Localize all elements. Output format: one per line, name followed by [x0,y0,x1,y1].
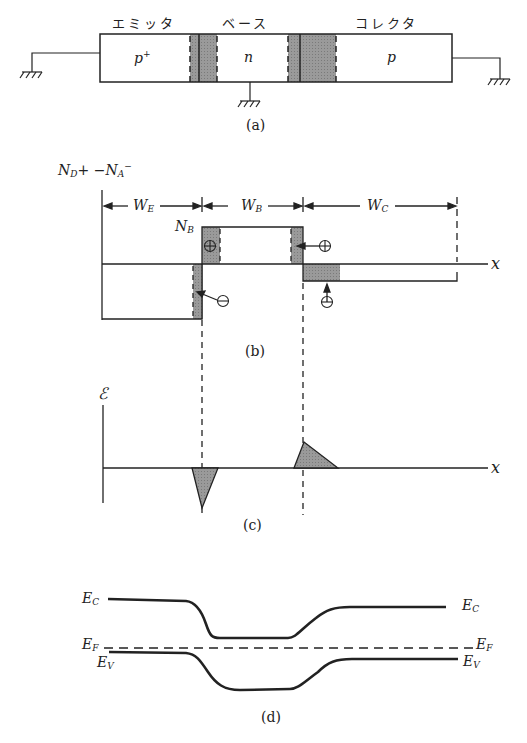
wb-main: W [241,197,255,213]
width-emitter-label: WE [133,197,154,214]
emitter-doping-sup: + [143,49,151,59]
nb-sub: B [187,225,194,235]
ylabel-main: N [58,162,70,178]
ef-left-sub: F [92,643,98,653]
ec-right-main: E [462,597,472,613]
width-collector-label: WC [367,197,388,214]
ec-label-left: EC [82,590,99,607]
caption-d: (d) [261,709,281,725]
wc-main: W [367,197,381,213]
emitter-doping: p+ [134,49,151,66]
caption-a: (a) [246,117,265,133]
ev-label-left: EV [97,654,114,671]
band-diagram [104,599,474,690]
wc-sub: C [381,204,388,214]
collector-label: コレクタ [355,13,418,32]
nb-label: NB [175,218,194,235]
diagram-canvas [0,0,527,743]
ev-label-right: EV [463,653,480,670]
ec-label-right: EC [462,597,479,614]
width-base-label: WB [241,197,262,214]
doping-axis-label: ND+ −NA− [58,161,132,179]
transistor-bar [100,34,452,82]
ev-left-sub: V [107,661,114,671]
nb-main: N [175,218,187,234]
field-axis-label: ℰ [98,384,108,403]
ec-left-main: E [82,590,92,606]
ev-right-sub: V [473,660,480,670]
x-axis-label-b: x [491,254,500,273]
we-main: W [133,197,147,213]
ylabel-end: − [124,161,132,171]
base-label: ベース [222,13,269,32]
ev-right-main: E [463,653,473,669]
caption-b: (b) [245,343,265,359]
doping-profile [102,190,488,320]
emitter-label: エミッタ [112,13,176,32]
valence-band [109,652,458,690]
ef-label-right: EF [476,636,492,653]
conduction-band [108,599,446,638]
ef-right-main: E [476,636,486,652]
ef-label-left: EF [82,636,98,653]
ground-base [238,82,260,107]
caption-c: (c) [243,517,262,533]
ec-left-sub: C [92,597,99,607]
field-profile [103,405,488,508]
ylabel-mid: + −N [77,162,117,178]
ground-emitter [20,53,100,78]
collector-doping: p [387,49,396,65]
ground-collector [452,58,510,85]
ec-right-sub: C [472,604,479,614]
x-axis-label-c: x [491,458,500,477]
ef-right-sub: F [486,643,492,653]
collector-depletion [288,34,336,82]
ef-left-main: E [82,636,92,652]
emitter-depletion [190,34,217,82]
wb-sub: B [255,204,262,214]
we-sub: E [147,204,154,214]
emitter-doping-type: p [134,50,143,66]
ev-left-main: E [97,654,107,670]
base-doping: n [244,49,253,65]
